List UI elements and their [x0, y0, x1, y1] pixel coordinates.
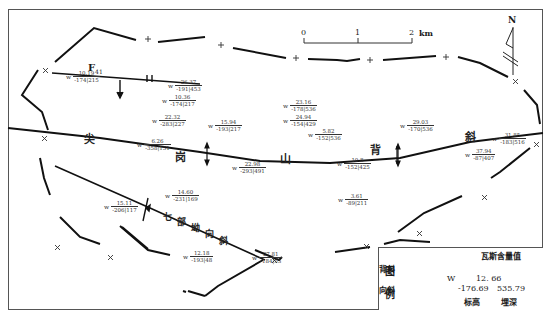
scale-unit: km — [419, 28, 433, 38]
scale-tick-0: 0 — [301, 28, 306, 37]
gas-point: w22.98-293|491 — [232, 161, 266, 174]
gas-point: w29.03-170|536 — [400, 119, 434, 132]
gas-point: w14.60-231|169 — [165, 189, 199, 202]
anticline-char-3: 山 — [280, 150, 291, 166]
legend-sample-elevation: -176.69 — [458, 284, 489, 293]
gas-point: w10.36-174|217 — [162, 94, 196, 107]
anticline-char-5: 斜 — [465, 128, 476, 144]
north-label: N — [508, 15, 516, 25]
syncline-char-4: 向 — [205, 227, 214, 240]
legend-depth-label: 埋深 — [501, 296, 517, 307]
gas-point: w26.37-191|453 — [168, 79, 202, 92]
syncline-char-1: 七 — [163, 210, 172, 223]
gas-point: w10.8-152|425 — [337, 157, 371, 170]
gas-point: w15.11-206|117 — [104, 200, 138, 213]
legend-syncline-label: 向斜 — [379, 284, 395, 295]
gas-point: w5.82-152|536 — [308, 128, 342, 141]
scale-tick-1: 1 — [355, 28, 360, 37]
gas-point: w27.81-184|53 — [252, 251, 282, 264]
syncline-char-3: 坳 — [191, 221, 200, 234]
gas-point: w37.94-87|407 — [465, 148, 495, 161]
gas-point: w10.19-174|215 — [66, 70, 100, 83]
gas-point: w31.85-183|516 — [492, 132, 526, 145]
legend-anticline-label: 背斜 — [379, 263, 395, 274]
gas-point: w23.16-178|536 — [283, 99, 317, 112]
syncline-char-5: 斜 — [219, 234, 228, 247]
scale-bar — [304, 38, 412, 43]
syncline-char-2: 部 — [177, 215, 186, 228]
legend-elev-label: 标高 — [464, 296, 480, 307]
anticline-char-2: 岗 — [175, 148, 186, 164]
legend-sample-header: 瓦斯含量值 — [481, 250, 521, 261]
gas-point: w15.94-193|217 — [208, 119, 242, 132]
gas-point: w22.32-283|227 — [152, 114, 186, 127]
gas-point: w6.26-358|151 — [137, 138, 171, 151]
legend-sample-content: 12. 66 — [476, 274, 501, 283]
gas-point: w24.94-154|429 — [283, 114, 317, 127]
anticline-char-4: 背 — [370, 141, 381, 157]
legend-sample-depth: 535.79 — [497, 284, 525, 293]
gas-point: w3.61-89|211 — [338, 193, 368, 206]
legend-sample-prefix: W — [447, 274, 455, 283]
syncline-symbol — [143, 198, 150, 221]
gas-point: w12.18-193|48 — [183, 250, 213, 263]
north-arrow-icon — [503, 27, 518, 75]
scale-tick-2: 2 — [409, 28, 414, 37]
anticline-char-1: 尖 — [84, 130, 95, 146]
syncline-axis — [55, 166, 265, 260]
